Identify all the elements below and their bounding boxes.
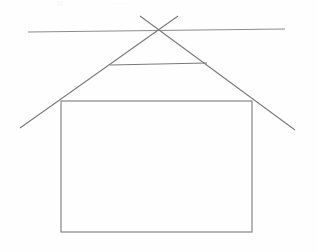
left-roof-diagonal bbox=[20, 16, 178, 128]
rectangle-body bbox=[61, 101, 252, 232]
right-roof-diagonal bbox=[140, 16, 295, 130]
collar-tie-horizontal bbox=[110, 63, 207, 65]
drawing-canvas: ||| ······· bbox=[0, 0, 318, 252]
house-outline-drawing bbox=[0, 0, 318, 252]
